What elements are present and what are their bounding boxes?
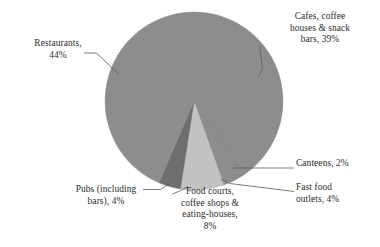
pie-label-cafes: Cafes, coffee houses & snack bars, 39% xyxy=(262,11,378,46)
pie-label-food-courts: Food courts, coffee shops & eating-house… xyxy=(158,186,262,232)
pie-slices xyxy=(105,12,283,190)
pie-label-pubs: Pubs (including bars), 4% xyxy=(52,184,160,207)
pie-label-fast-food: Fast food outlets, 4% xyxy=(296,182,380,205)
pie-chart-figure: Cafes, coffee houses & snack bars, 39% R… xyxy=(0,0,380,247)
pie-label-restaurants: Restaurants, 44% xyxy=(6,38,110,61)
pie-label-canteens: Canteens, 2% xyxy=(296,158,380,170)
